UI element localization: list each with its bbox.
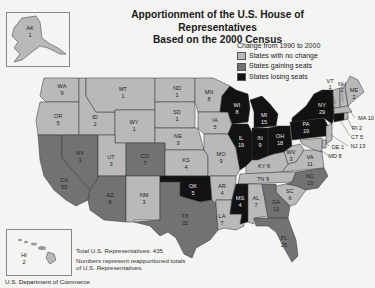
state-de[interactable] <box>322 140 326 148</box>
seats-ia: 5 <box>213 124 216 130</box>
seats-fl: 25 <box>281 242 287 248</box>
seats-ne: 3 <box>176 140 179 146</box>
label-ar: AR <box>218 183 226 189</box>
state-co[interactable]: CO 7 <box>126 143 165 176</box>
seats-ut: 3 <box>109 161 112 167</box>
label-wy: WY <box>129 119 138 125</box>
seats-nc: 13 <box>307 180 313 186</box>
label-sc: SC <box>286 188 294 194</box>
seats-in: 9 <box>258 142 261 148</box>
label-ky: KY 6 <box>258 163 270 169</box>
label-il: IL <box>239 135 244 141</box>
state-ny[interactable]: NY 29 <box>292 90 334 124</box>
state-vt[interactable] <box>333 88 340 108</box>
label-sd: SD <box>173 109 181 115</box>
seats-me: 2 <box>352 94 355 100</box>
callout-md: MD 8 <box>328 153 341 159</box>
seats-va: 11 <box>307 161 313 167</box>
numbers-note: Numbers represent reapportioned totals o… <box>76 257 186 271</box>
label-ny: NY <box>318 102 326 108</box>
state-sd[interactable]: SD 1 <box>155 102 195 128</box>
label-wv: WV <box>286 149 295 155</box>
label-mi: MI <box>261 112 268 118</box>
label-in: IN <box>257 135 263 141</box>
state-ks[interactable]: KS 4 <box>165 150 208 176</box>
label-ut: UT <box>107 154 115 160</box>
state-mt[interactable]: MT 1 <box>86 78 155 112</box>
seats-pa: 19 <box>303 128 309 134</box>
seats-sd: 1 <box>175 116 178 122</box>
state-nd[interactable]: ND 1 <box>155 78 195 102</box>
label-va: VA <box>306 154 313 160</box>
seats-wi: 8 <box>235 109 238 115</box>
seats-co: 7 <box>143 160 146 166</box>
state-wy[interactable]: WY 1 <box>115 110 155 143</box>
state-hi[interactable]: HI 2 <box>18 239 56 265</box>
seats-vt: 1 <box>328 84 331 90</box>
label-nv: NV <box>76 150 84 156</box>
label-ks: KS <box>182 157 190 163</box>
label-az: AZ <box>106 192 114 198</box>
callout-de: DE 1 <box>332 144 344 150</box>
label-ok: OK <box>189 183 197 189</box>
total-representatives: Total U.S. Representatives: 435 <box>76 247 163 254</box>
label-ne: NE <box>174 133 182 139</box>
seats-ks: 4 <box>184 164 187 170</box>
seats-oh: 18 <box>277 140 283 146</box>
seats-nd: 1 <box>175 92 178 98</box>
seats-az: 8 <box>108 199 111 205</box>
label-hi: HI <box>21 252 27 258</box>
label-or: OR <box>54 113 62 119</box>
seats-wa: 9 <box>60 90 63 96</box>
label-ca: CA <box>60 177 68 183</box>
label-mo: MO <box>216 151 226 157</box>
seats-wv: 3 <box>289 156 292 162</box>
label-pa: PA <box>302 121 309 127</box>
label-nc: NC <box>306 173 314 179</box>
seats-mo: 9 <box>219 158 222 164</box>
label-me: ME <box>350 87 359 93</box>
state-ak[interactable]: AK 1 <box>12 16 66 62</box>
state-tn[interactable]: TN 9 <box>238 172 296 184</box>
seats-ms: 4 <box>238 202 241 208</box>
seats-wy: 1 <box>132 126 135 132</box>
seats-sc: 6 <box>288 195 291 201</box>
state-or[interactable]: OR 5 <box>36 102 79 135</box>
callout-ct: CT 5 <box>351 134 363 140</box>
seats-la: 7 <box>220 220 223 226</box>
label-co: CO <box>141 153 150 159</box>
label-ak: AK <box>26 25 34 31</box>
callout-nj: NJ 13 <box>351 143 366 149</box>
seats-nh: 2 <box>340 87 343 93</box>
label-ga: GA <box>272 199 280 205</box>
state-mi[interactable]: MI 15 <box>250 96 278 128</box>
seats-al: 7 <box>254 202 257 208</box>
state-fl[interactable]: FL 25 <box>254 218 298 262</box>
label-oh: OH <box>276 133 284 139</box>
seats-ar: 4 <box>220 190 223 196</box>
label-mn: MN <box>205 89 214 95</box>
state-ct[interactable] <box>334 113 344 122</box>
state-ri[interactable] <box>344 113 348 120</box>
seats-ca: 53 <box>61 184 67 190</box>
label-nm: NM <box>140 192 149 198</box>
seats-hi: 2 <box>22 259 25 265</box>
state-wa[interactable]: WA 9 <box>40 78 79 102</box>
seats-or: 5 <box>56 120 59 126</box>
seats-tx: 32 <box>182 220 188 226</box>
seats-nm: 3 <box>142 199 145 205</box>
state-ia[interactable]: IA 5 <box>198 112 232 134</box>
label-tn: TN 9 <box>257 176 269 182</box>
state-in[interactable]: IN 9 <box>252 128 268 160</box>
label-ia: IA <box>212 117 218 123</box>
state-nj[interactable] <box>326 124 332 144</box>
seats-mn: 8 <box>207 96 210 102</box>
seats-id: 2 <box>93 121 96 127</box>
seats-ok: 5 <box>191 190 194 196</box>
label-wa: WA <box>58 83 67 89</box>
label-al: AL <box>253 195 260 201</box>
seats-ak: 1 <box>28 32 31 38</box>
state-me[interactable]: ME 2 <box>345 76 364 106</box>
state-nm[interactable]: NM 3 <box>126 176 160 222</box>
label-fl: FL <box>281 235 288 241</box>
